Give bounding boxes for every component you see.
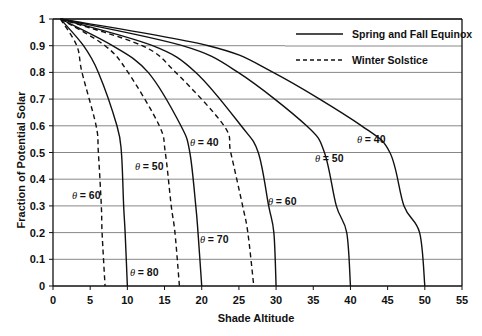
curve-label: θ = 40 xyxy=(357,133,386,145)
y-tick-label: 0.4 xyxy=(30,173,46,185)
curve-label-value: = 60 xyxy=(80,189,101,201)
x-tick-label: 20 xyxy=(196,294,208,306)
x-tick-label: 10 xyxy=(121,294,133,306)
theta-symbol: θ xyxy=(130,267,138,278)
y-tick-label: 0.5 xyxy=(30,147,45,159)
y-tick-label: 0.3 xyxy=(30,200,45,212)
x-tick-label: 25 xyxy=(233,294,245,306)
legend-label-equinox: Spring and Fall Equinox xyxy=(352,28,472,40)
theta-symbol: θ xyxy=(200,234,208,245)
curve-label-value: = 60 xyxy=(276,195,297,207)
theta-symbol: θ xyxy=(268,196,276,207)
y-tick-label: 0.7 xyxy=(30,93,45,105)
curve-label-value: = 50 xyxy=(323,152,344,164)
curve-label: θ = 60 xyxy=(268,195,297,207)
x-tick-label: 15 xyxy=(158,294,170,306)
curve-label-value: = 40 xyxy=(365,133,386,145)
theta-symbol: θ xyxy=(135,161,143,172)
curve-label-value: = 80 xyxy=(138,266,159,278)
theta-symbol: θ xyxy=(190,137,198,148)
legend: Spring and Fall Equinox Winter Solstice xyxy=(285,20,472,71)
curve-label-value: = 50 xyxy=(143,160,164,172)
x-tick-label: 0 xyxy=(50,294,56,306)
shade-chart: Spring and Fall Equinox Winter Solstice … xyxy=(0,0,482,336)
y-tick-label: 0.2 xyxy=(30,227,45,239)
theta-symbol: θ xyxy=(72,190,80,201)
curve-label: θ = 50 xyxy=(315,152,344,164)
y-tick-label: 0.9 xyxy=(30,40,45,52)
curve-label: θ = 40 xyxy=(190,136,219,148)
y-tick-label: 0.1 xyxy=(30,253,45,265)
theta-symbol: θ xyxy=(357,134,365,145)
y-axis-title: Fraction of Potential Solar xyxy=(15,91,27,229)
theta-symbol: θ xyxy=(315,153,323,164)
x-tick-label: 40 xyxy=(344,294,356,306)
curve-label-value: = 70 xyxy=(208,233,229,245)
x-tick-label: 55 xyxy=(456,294,468,306)
legend-label-solstice: Winter Solstice xyxy=(352,54,428,66)
x-tick-label: 5 xyxy=(87,294,93,306)
curve-label: θ = 50 xyxy=(135,160,164,172)
x-axis-title: Shade Altitude xyxy=(218,312,295,324)
curve-label: θ = 70 xyxy=(200,233,229,245)
y-tick-label: 0.8 xyxy=(30,66,45,78)
x-tick-label: 35 xyxy=(307,294,319,306)
y-tick-label: 0.6 xyxy=(30,120,45,132)
y-tick-label: 0 xyxy=(39,280,45,292)
curve-label-value: = 40 xyxy=(198,136,219,148)
x-tick-label: 50 xyxy=(419,294,431,306)
x-tick-label: 45 xyxy=(382,294,394,306)
curve-label: θ = 80 xyxy=(130,266,159,278)
x-tick-label: 30 xyxy=(270,294,282,306)
y-tick-label: 1 xyxy=(39,13,45,25)
curve-label: θ = 60 xyxy=(72,189,101,201)
